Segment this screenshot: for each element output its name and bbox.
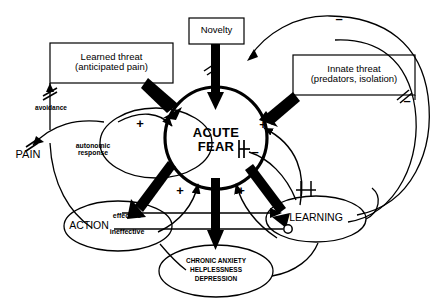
label-learned-threat: Learned threat (anticipated pain) xyxy=(56,52,167,73)
curve-chronic-to-learning xyxy=(272,243,318,276)
sign-plus-bottom-left: + xyxy=(173,184,187,198)
sign-plus-right: + xyxy=(256,118,270,132)
sign-minus-right-center: – xyxy=(248,145,262,159)
arrowhead-outer-loop xyxy=(247,49,258,61)
sign-plus-left: + xyxy=(133,117,147,131)
label-acute-fear: ACUTE FEAR xyxy=(186,126,246,155)
label-chronic-outcome: CHRONIC ANXIETY HELPLESSNESS DEPRESSION xyxy=(168,257,264,283)
label-learning: LEARNING xyxy=(283,212,349,224)
label-pain: PAIN xyxy=(8,148,48,160)
sign-minus-right-edge: – xyxy=(400,94,414,108)
sign-minus-top-right: – xyxy=(332,12,346,26)
label-novelty: Novelty xyxy=(189,25,244,35)
curve-learning-right-small xyxy=(366,188,378,219)
diagram-canvas: Learned threat (anticipated pain) Novelt… xyxy=(0,0,439,306)
arrow-fear-to-learning xyxy=(245,164,286,214)
sign-plus-bottom-right: + xyxy=(234,184,248,198)
arrow-fear-to-action xyxy=(135,161,176,212)
terminator-circle-ineffective xyxy=(284,225,292,233)
label-ineffective: ineffective xyxy=(101,228,153,236)
label-autonomic-response: autonomic response xyxy=(62,142,124,157)
inhibition-mark-learning xyxy=(296,181,316,196)
label-innate-threat: Innate threat (predators, isolation) xyxy=(296,64,412,85)
arrow-fear-to-chronic xyxy=(211,178,220,236)
label-effective: effective xyxy=(103,212,151,220)
label-avoidance: avoidance xyxy=(22,104,80,111)
